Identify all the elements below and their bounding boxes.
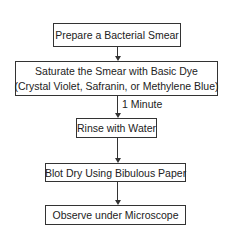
connector-label: 1 Minute (122, 98, 162, 110)
step-observe: Observe under Microscope (45, 205, 186, 225)
connector-arrow (117, 138, 118, 158)
step-label: Blot Dry Using Bibulous Paper (45, 167, 186, 179)
step-label: Prepare a Bacterial Smear (55, 29, 179, 41)
step-label: Saturate the Smear with Basic Dye (35, 65, 198, 77)
step-prepare-smear: Prepare a Bacterial Smear (53, 23, 181, 47)
connector-arrow (117, 96, 118, 113)
step-rinse: Rinse with Water (76, 118, 157, 138)
connector-arrow (117, 47, 118, 56)
connector-arrow (117, 182, 118, 200)
step-label: Rinse with Water (77, 122, 156, 134)
step-sublabel: (Crystal Violet, Safranin, or Methylene … (14, 80, 218, 92)
step-saturate-dye: Saturate the Smear with Basic Dye (Cryst… (15, 61, 218, 96)
step-blot-dry: Blot Dry Using Bibulous Paper (45, 163, 186, 182)
step-label: Observe under Microscope (52, 209, 178, 221)
